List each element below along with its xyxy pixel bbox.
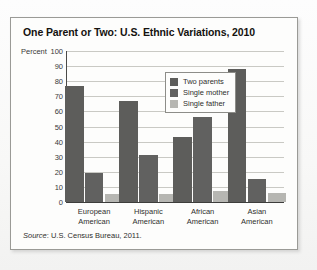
legend-label: Single father — [183, 99, 225, 108]
y-axis-tick-label: 40 — [55, 137, 63, 146]
y-axis-tick-label: 50 — [55, 122, 63, 131]
y-axis-tick-label: 60 — [55, 107, 63, 116]
legend-swatch-icon — [170, 100, 178, 108]
y-axis-caption: Percent — [21, 47, 47, 56]
y-axis-tick-label: 20 — [55, 167, 63, 176]
x-axis-category-line: Asian — [241, 207, 273, 217]
bar-single-mother — [85, 173, 104, 202]
legend-swatch-icon — [170, 78, 178, 86]
x-axis-category-line: American — [187, 217, 219, 227]
y-axis-tick-label: 80 — [55, 77, 63, 86]
x-axis-category-line: African — [187, 207, 219, 217]
bar-two-parents — [173, 137, 192, 202]
legend-label: Single mother — [183, 88, 229, 97]
legend-item: Two parents — [170, 76, 229, 87]
x-axis-category-label: AsianAmerican — [241, 207, 273, 227]
chart-legend: Two parentsSingle motherSingle father — [165, 72, 236, 113]
source-text: : U.S. Census Bureau, 2011. — [47, 231, 142, 240]
x-axis-category-label: EuropeanAmerican — [78, 207, 111, 227]
y-axis-tick-label: 100 — [50, 47, 63, 56]
y-axis-tick-label: 10 — [55, 182, 63, 191]
source-label: Source — [23, 231, 47, 240]
bar-single-mother — [139, 155, 158, 202]
gridline: 0 — [67, 202, 284, 203]
bar-single-mother — [248, 179, 267, 202]
source-note: Source: U.S. Census Bureau, 2011. — [23, 231, 142, 240]
figure-container: One Parent or Two: U.S. Ethnic Variation… — [10, 17, 298, 250]
x-axis-category-line: American — [133, 217, 165, 227]
y-axis-tick-label: 30 — [55, 152, 63, 161]
bar-two-parents — [119, 101, 138, 202]
y-axis-tick-label: 90 — [55, 62, 63, 71]
bar-single-mother — [193, 117, 212, 202]
x-axis-category-line: American — [78, 217, 111, 227]
bar-two-parents — [65, 86, 84, 202]
chart-title: One Parent or Two: U.S. Ethnic Variation… — [23, 26, 255, 38]
legend-label: Two parents — [183, 77, 224, 86]
x-axis-category-line: Hispanic — [133, 207, 165, 217]
page-canvas: One Parent or Two: U.S. Ethnic Variation… — [0, 0, 317, 270]
x-axis-category-label: AfricanAmerican — [187, 207, 219, 227]
legend-swatch-icon — [170, 89, 178, 97]
x-axis-category-label: HispanicAmerican — [133, 207, 165, 227]
bar-group: EuropeanAmerican — [67, 51, 121, 202]
legend-item: Single mother — [170, 87, 229, 98]
x-axis-category-line: European — [78, 207, 111, 217]
bar-group: AsianAmerican — [230, 51, 284, 202]
y-axis-tick-label: 70 — [55, 92, 63, 101]
x-axis-category-line: American — [241, 217, 273, 227]
bar-single-father — [268, 193, 287, 202]
legend-item: Single father — [170, 98, 229, 109]
y-axis-tick-label: 0 — [59, 198, 63, 207]
